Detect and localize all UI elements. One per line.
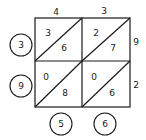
- result-left-1: 9: [18, 81, 24, 91]
- cell-r0c1-ones: 7: [110, 43, 116, 53]
- result-bottom-0: 5: [58, 119, 64, 129]
- right-digit-1: 2: [133, 80, 139, 90]
- top-digit-0: 4: [53, 7, 59, 17]
- top-digit-1: 3: [101, 6, 107, 16]
- diagonal-r0c0: [35, 18, 82, 61]
- right-digit-0: 9: [133, 37, 139, 47]
- result-left-0: 3: [18, 40, 24, 50]
- cell-r1c0-tens: 0: [43, 72, 49, 82]
- cell-r1c1-ones: 6: [109, 88, 115, 98]
- diagonal-r1c1: [82, 61, 130, 107]
- cell-r1c1-tens: 0: [91, 72, 97, 82]
- cell-r1c0-ones: 8: [62, 88, 68, 98]
- cell-r0c1-tens: 2: [93, 28, 99, 38]
- lattice-diagram: 4 3 9 2 3 6 2 7 0 8 0 6 3 9 5 6: [0, 0, 146, 140]
- result-bottom-1: 6: [102, 119, 108, 129]
- cell-r0c0-tens: 3: [45, 28, 51, 38]
- cell-r0c0-ones: 6: [61, 43, 67, 53]
- diagonal-r1c0: [35, 61, 82, 107]
- diagonal-r0c1: [82, 18, 130, 61]
